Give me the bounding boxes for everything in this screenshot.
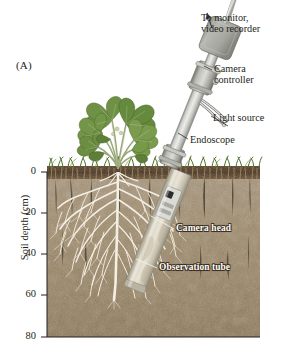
- axis-tick-label-60: 60: [14, 288, 36, 299]
- clover-plant: [77, 97, 158, 169]
- label-light-source: Light source: [213, 112, 264, 123]
- axis-tick-label-40: 40: [14, 247, 36, 258]
- label-endoscope: Endoscope: [190, 134, 235, 145]
- label-camera-controller: Camera controller: [214, 63, 254, 86]
- axis-tick-label-20: 20: [14, 206, 36, 217]
- axis-title: Soil depth (cm): [19, 173, 30, 283]
- label-observation-tube: Observation tube: [159, 262, 230, 272]
- label-camera-head: Camera head: [176, 223, 231, 233]
- diagram-canvas: [0, 0, 303, 358]
- figure-panel-a: (A) To monitor, video recorder Camera co…: [0, 0, 303, 358]
- label-to-monitor: To monitor, video recorder: [201, 12, 260, 35]
- axis-tick-label-80: 80: [14, 330, 36, 341]
- axis-tick-label-0: 0: [14, 165, 36, 176]
- panel-label: (A): [16, 59, 32, 71]
